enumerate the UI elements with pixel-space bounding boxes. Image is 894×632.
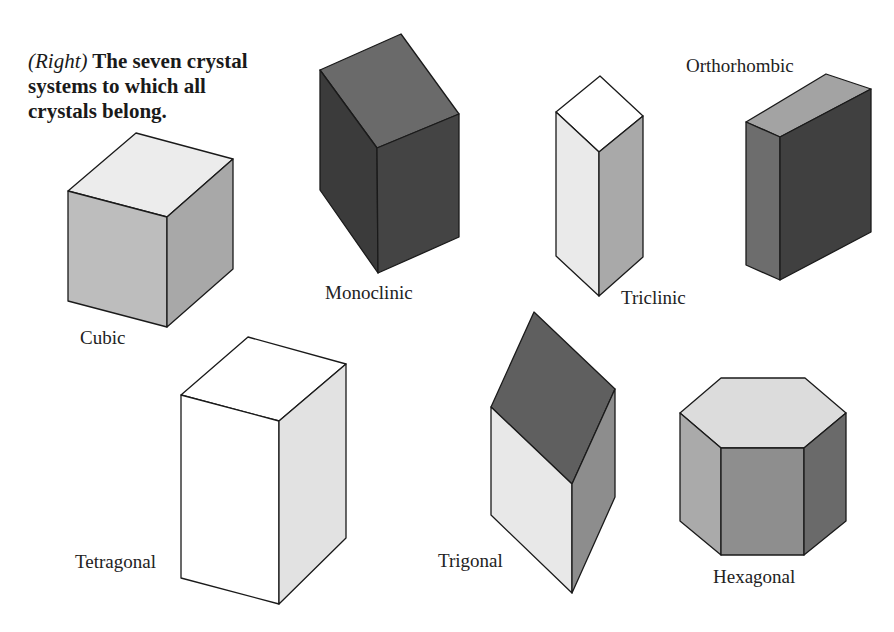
label-trigonal: Trigonal (438, 550, 503, 572)
triclinic-crystal (556, 76, 643, 296)
crystal-systems-figure: (Right) The seven crystal systems to whi… (0, 0, 894, 632)
hexagonal-front-face (721, 448, 804, 555)
cubic-crystal (68, 133, 233, 327)
orthorhombic-left-face (746, 122, 780, 280)
label-hexagonal: Hexagonal (713, 566, 795, 588)
tetragonal-left-face (181, 395, 279, 604)
label-monoclinic: Monoclinic (325, 282, 413, 304)
trigonal-crystal (491, 312, 615, 593)
label-triclinic: Triclinic (621, 287, 686, 309)
label-tetragonal: Tetragonal (75, 551, 156, 573)
crystal-shapes (0, 0, 894, 632)
hexagonal-crystal (680, 378, 846, 555)
monoclinic-crystal (320, 34, 459, 273)
orthorhombic-crystal (746, 74, 871, 280)
label-orthorhombic: Orthorhombic (686, 55, 794, 77)
label-cubic: Cubic (80, 327, 125, 349)
tetragonal-crystal (181, 337, 346, 604)
